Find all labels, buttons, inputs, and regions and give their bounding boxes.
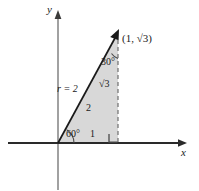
- opposite-side-label: √3: [99, 79, 110, 89]
- geometry-figure: y x (1, √3) 30° √3 r = 2 2 60° 1: [0, 0, 199, 191]
- radius-label: r = 2: [57, 84, 78, 94]
- angle-label-30: 30°: [101, 57, 115, 67]
- angle-label-60: 60°: [66, 129, 80, 139]
- x-axis-label: x: [181, 147, 186, 158]
- y-axis-label: y: [47, 4, 52, 15]
- hypotenuse-label: 2: [86, 103, 91, 113]
- terminal-ray-arrowhead: [110, 29, 119, 40]
- point-coordinate-label: (1, √3): [122, 33, 152, 44]
- adjacent-side-label: 1: [90, 129, 95, 139]
- diagram-canvas: [0, 0, 199, 191]
- y-axis-arrowhead: [55, 10, 62, 19]
